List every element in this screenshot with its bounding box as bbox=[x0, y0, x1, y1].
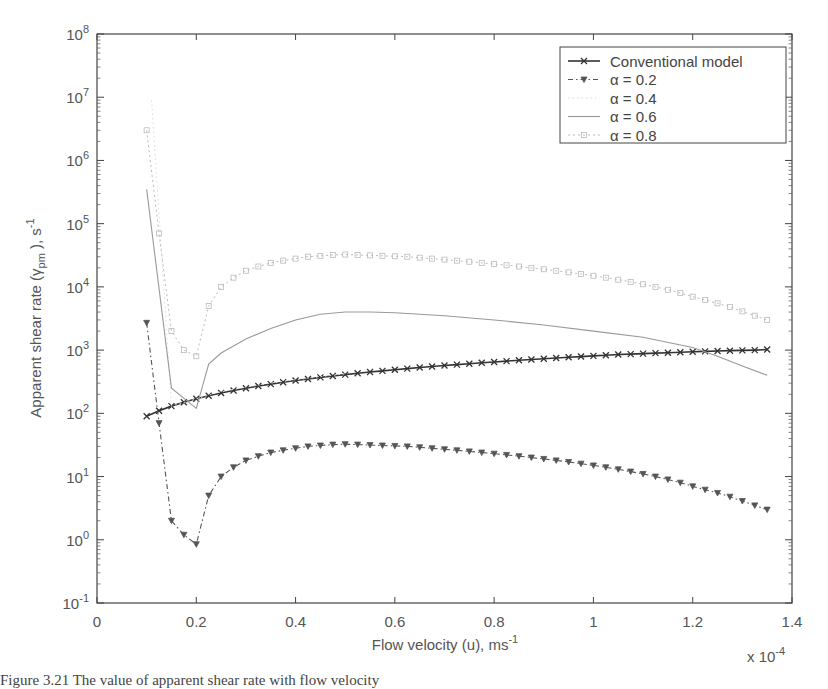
square-marker bbox=[243, 268, 248, 273]
y-axis-label: Apparent shear rate (γpm ), s-1 bbox=[24, 218, 47, 417]
y-tick-label: 102 bbox=[66, 402, 89, 422]
legend-label: Conventional model bbox=[610, 53, 743, 70]
square-marker bbox=[727, 305, 732, 310]
series--0-2 bbox=[144, 320, 771, 547]
series--0-8 bbox=[144, 128, 770, 359]
triangle-marker bbox=[280, 448, 286, 454]
y-tick-label: 101 bbox=[66, 466, 89, 486]
legend-label: α = 0.2 bbox=[610, 71, 657, 88]
x-tick-label: 0 bbox=[93, 613, 101, 630]
series-line bbox=[147, 130, 768, 356]
series-line bbox=[152, 100, 346, 406]
y-tick-label: 10-1 bbox=[63, 592, 89, 612]
x-tick-label: 1.4 bbox=[782, 613, 803, 630]
plot-area bbox=[144, 100, 771, 547]
y-tick-label: 106 bbox=[66, 149, 89, 169]
series-line bbox=[147, 189, 768, 408]
x-tick-label: 0.4 bbox=[285, 613, 306, 630]
y-tick-label: 108 bbox=[66, 23, 89, 43]
x-tick-label: 1.2 bbox=[682, 613, 703, 630]
y-tick-label: 105 bbox=[66, 213, 89, 233]
series-line bbox=[147, 323, 768, 544]
x-tick-label: 0.8 bbox=[484, 613, 505, 630]
series-line bbox=[147, 350, 768, 417]
series--0-4 bbox=[152, 100, 346, 406]
triangle-marker bbox=[243, 458, 249, 464]
figure-caption: Figure 3.21 The value of apparent shear … bbox=[0, 672, 379, 689]
x-tick-label: 1 bbox=[589, 613, 597, 630]
y-tick-label: 103 bbox=[66, 339, 89, 359]
triangle-marker bbox=[218, 474, 224, 480]
y-tick-label: 107 bbox=[66, 86, 89, 106]
x-marker bbox=[144, 413, 150, 419]
triangle-marker bbox=[156, 421, 162, 427]
x-multiplier-label: x 10-4 bbox=[747, 645, 785, 665]
series-conventional-model bbox=[144, 347, 771, 420]
triangle-marker bbox=[144, 320, 150, 326]
x-tick-label: 0.6 bbox=[384, 613, 405, 630]
legend-label: α = 0.6 bbox=[610, 108, 657, 125]
x-tick-label: 0.2 bbox=[186, 613, 207, 630]
legend-label: α = 0.8 bbox=[610, 127, 657, 144]
y-tick-label: 100 bbox=[66, 529, 89, 549]
triangle-marker bbox=[231, 465, 237, 471]
square-marker bbox=[752, 313, 757, 318]
legend-label: α = 0.4 bbox=[610, 90, 657, 107]
triangle-marker bbox=[764, 507, 770, 513]
triangle-marker bbox=[752, 503, 758, 509]
x-axis-label: Flow velocity (u), ms-1 bbox=[372, 633, 518, 653]
square-marker bbox=[765, 317, 770, 322]
triangle-marker bbox=[268, 450, 274, 456]
triangle-marker bbox=[255, 454, 261, 460]
triangle-marker bbox=[193, 542, 199, 548]
y-tick-label: 104 bbox=[66, 276, 89, 296]
legend: Conventional modelα = 0.2α = 0.4α = 0.6α… bbox=[560, 47, 786, 144]
triangle-marker bbox=[293, 446, 299, 452]
triangle-marker bbox=[206, 493, 212, 499]
series--0-6 bbox=[147, 189, 768, 408]
